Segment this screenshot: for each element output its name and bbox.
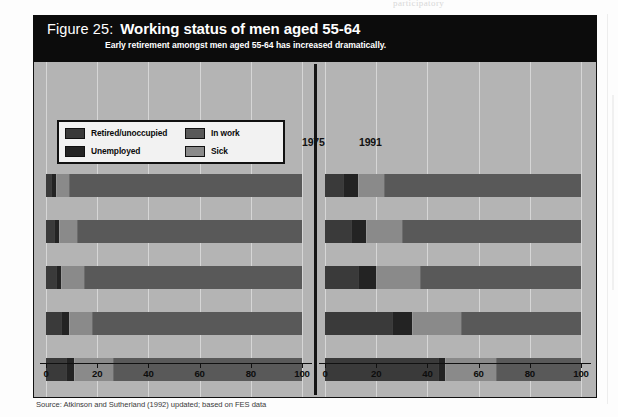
bar-segment-sick[interactable]: [376, 266, 420, 289]
bar-segment-unemployed[interactable]: [358, 266, 376, 289]
x-axis-tick-label-100: 100: [294, 368, 309, 379]
x-axis-tick-label-80: 80: [525, 368, 535, 379]
panel-year-label-1975: 1975: [302, 136, 325, 148]
x-axis-line: [319, 363, 591, 364]
figure-number: Figure 25:: [47, 21, 113, 37]
bar-row[interactable]: [325, 220, 581, 243]
bar-row[interactable]: [46, 358, 302, 381]
bar-row[interactable]: [46, 174, 302, 197]
figure-subtitle: Early retirement amongst men aged 55-64 …: [105, 40, 597, 50]
bar-segment-unemployed[interactable]: [392, 312, 412, 335]
bar-segment-retired-unoccupied[interactable]: [46, 220, 54, 243]
gridline: [581, 62, 582, 397]
legend-label-inwork: In work: [211, 128, 240, 138]
page-ghost-text: participatory: [393, 0, 543, 12]
page-right-rule-secondary: [612, 95, 614, 290]
bar-segment-unemployed[interactable]: [61, 312, 69, 335]
bar-segment-retired-unoccupied[interactable]: [325, 174, 343, 197]
legend-item-retired[interactable]: Retired/unoccupied: [65, 128, 185, 139]
bar-segment-in-work[interactable]: [69, 174, 302, 197]
bar-segment-sick[interactable]: [61, 266, 84, 289]
figure-source-note: Source: Atkinson and Sutherland (1992) u…: [36, 400, 266, 409]
chart-body: 55-5657-5859-6061-6263-64020406080100 02…: [33, 62, 597, 398]
bar-segment-sick[interactable]: [56, 174, 69, 197]
bar-segment-sick[interactable]: [366, 220, 402, 243]
x-axis-tick-label-40: 40: [422, 368, 432, 379]
bar-segment-in-work[interactable]: [92, 312, 302, 335]
legend-label-unemployed: Unemployed: [91, 146, 140, 156]
bar-row[interactable]: [46, 220, 302, 243]
bar-row[interactable]: [325, 174, 581, 197]
panel-year-label-1991: 1991: [359, 136, 382, 148]
bar-segment-retired-unoccupied[interactable]: [325, 312, 392, 335]
x-axis-tick-label-80: 80: [246, 368, 256, 379]
bar-segment-sick[interactable]: [59, 220, 77, 243]
figure-header: Figure 25: Working status of men aged 55…: [33, 15, 597, 62]
x-axis-tick-label-20: 20: [92, 368, 102, 379]
legend-swatch-retired: [65, 128, 85, 139]
bar-segment-sick[interactable]: [358, 174, 384, 197]
bar-segment-unemployed[interactable]: [351, 220, 366, 243]
figure-container: Figure 25: Working status of men aged 55…: [33, 15, 597, 398]
bar-segment-retired-unoccupied[interactable]: [46, 266, 56, 289]
bar-segment-sick[interactable]: [445, 358, 496, 381]
x-axis-tick-label-60: 60: [473, 368, 483, 379]
chart-panel-1991: 020406080100: [319, 62, 591, 397]
figure-header-line: Figure 25: Working status of men aged 55…: [47, 20, 597, 37]
x-axis-line: [40, 363, 312, 364]
bar-segment-in-work[interactable]: [84, 266, 302, 289]
legend-swatch-unemployed: [65, 146, 85, 157]
x-axis-tick-label-100: 100: [573, 368, 588, 379]
legend-item-inwork[interactable]: In work: [185, 128, 293, 139]
x-axis-tick-label-20: 20: [371, 368, 381, 379]
bar-segment-in-work[interactable]: [77, 220, 302, 243]
gridline: [302, 62, 303, 397]
legend-swatch-inwork: [185, 128, 205, 139]
bar-segment-unemployed[interactable]: [343, 174, 358, 197]
bar-segment-retired-unoccupied[interactable]: [46, 358, 66, 381]
bar-row[interactable]: [46, 312, 302, 335]
bar-row[interactable]: [325, 358, 581, 381]
bar-row[interactable]: [46, 266, 302, 289]
bar-segment-unemployed[interactable]: [438, 358, 446, 381]
bar-segment-in-work[interactable]: [113, 358, 302, 381]
legend-item-sick[interactable]: Sick: [185, 146, 293, 157]
x-axis-tick-label-0: 0: [322, 368, 327, 379]
bar-segment-in-work[interactable]: [496, 358, 580, 381]
page-background: participatory Figure 25: Working status …: [0, 0, 618, 417]
bar-segment-retired-unoccupied[interactable]: [46, 312, 61, 335]
chart-legend: Retired/unoccupied In work Unemployed Si…: [57, 120, 285, 164]
x-axis-tick-label-0: 0: [43, 368, 48, 379]
figure-title: Working status of men aged 55-64: [120, 20, 360, 37]
bar-segment-sick[interactable]: [69, 312, 92, 335]
bar-segment-in-work[interactable]: [461, 312, 581, 335]
x-axis-tick-label-40: 40: [143, 368, 153, 379]
bar-segment-in-work[interactable]: [384, 174, 581, 197]
bar-segment-unemployed[interactable]: [66, 358, 74, 381]
bar-segment-retired-unoccupied[interactable]: [325, 220, 351, 243]
x-axis-tick-label-60: 60: [194, 368, 204, 379]
page-right-rule: [607, 14, 608, 404]
bar-segment-retired-unoccupied[interactable]: [325, 266, 358, 289]
panel-divider: [314, 64, 317, 395]
bar-row[interactable]: [325, 312, 581, 335]
legend-item-unemployed[interactable]: Unemployed: [65, 146, 185, 157]
legend-label-sick: Sick: [211, 146, 228, 156]
bar-segment-sick[interactable]: [412, 312, 461, 335]
bar-segment-in-work[interactable]: [420, 266, 581, 289]
bar-row[interactable]: [325, 266, 581, 289]
bar-segment-in-work[interactable]: [402, 220, 581, 243]
legend-swatch-sick: [185, 146, 205, 157]
legend-label-retired: Retired/unoccupied: [91, 128, 167, 138]
chart-panel-1975: 55-5657-5859-6061-6263-64020406080100: [40, 62, 312, 397]
